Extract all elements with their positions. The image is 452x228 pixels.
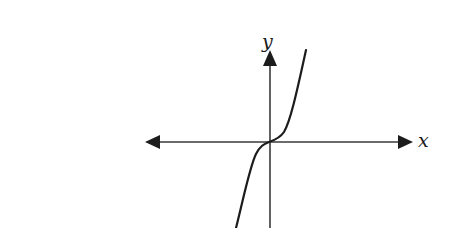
x-axis-left-arrow-icon [145,135,160,149]
y-axis-label: y [262,32,273,51]
graph-canvas [0,0,452,228]
y-axis-up-arrow-icon [263,50,277,66]
function-curve [236,50,306,228]
x-axis-right-arrow-icon [398,135,413,149]
x-axis-label: x [418,131,429,150]
